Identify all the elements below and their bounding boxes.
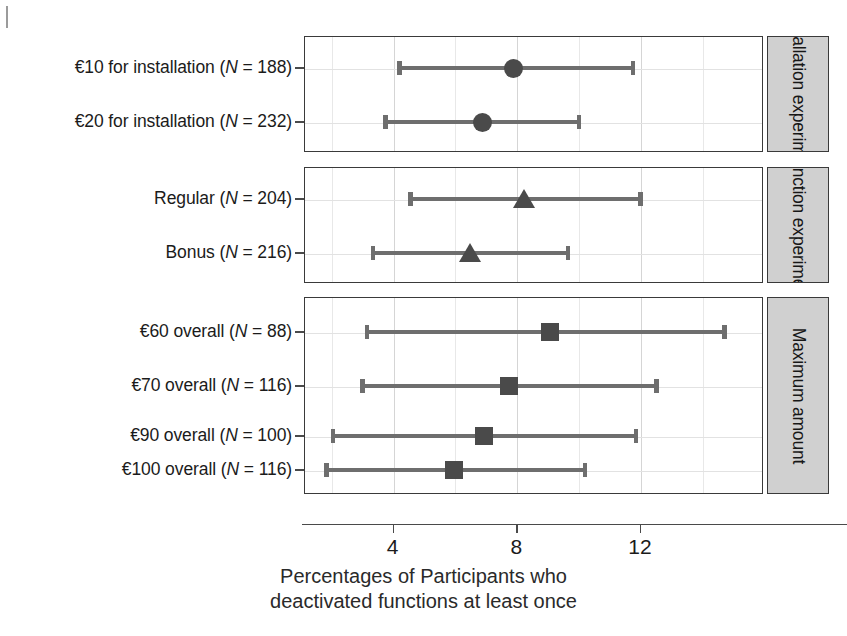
gridline-x-8 bbox=[517, 37, 518, 151]
gridline-x-10 bbox=[579, 37, 580, 151]
row-label-prefix: Regular ( bbox=[154, 188, 225, 208]
strip-label-text: Maximum amount bbox=[788, 327, 809, 463]
row-label--90-overall-n-100-: €90 overall (N = 100) bbox=[130, 425, 292, 446]
error-bar-cap-low bbox=[383, 115, 388, 129]
gridline-x-8 bbox=[517, 298, 518, 493]
data-point-square bbox=[541, 323, 559, 341]
row-label-suffix: = 88) bbox=[247, 321, 292, 341]
row-label--70-overall-n-116-: €70 overall (N = 116) bbox=[131, 375, 292, 396]
x-axis-tick-12 bbox=[640, 525, 641, 533]
row-label--100-overall-n-116-: €100 overall (N = 116) bbox=[122, 459, 292, 480]
gridline-x-12 bbox=[641, 37, 642, 151]
y-axis-tick-3-4 bbox=[295, 469, 304, 471]
error-bar-cap-low bbox=[365, 325, 370, 339]
error-bar-cap-high bbox=[631, 61, 636, 75]
y-axis-tick-2-2 bbox=[295, 252, 304, 254]
gridline-x-12 bbox=[641, 298, 642, 493]
row-label-n-symbol: N bbox=[225, 57, 238, 77]
error-bar-cap-low bbox=[324, 463, 329, 477]
gridline-x-6 bbox=[455, 37, 456, 151]
y-axis-tick-2-1 bbox=[295, 198, 304, 200]
row-label--60-overall-n-88-: €60 overall (N = 88) bbox=[140, 321, 292, 342]
error-bar-cap-high bbox=[583, 463, 588, 477]
row-label-regular-n-204-: Regular (N = 204) bbox=[154, 188, 292, 209]
y-axis-tick-1-1 bbox=[295, 67, 304, 69]
data-point-triangle bbox=[459, 243, 481, 262]
row-label-prefix: €10 for installation ( bbox=[75, 57, 226, 77]
facet-panel-3 bbox=[304, 297, 763, 494]
row-label-prefix: Bonus ( bbox=[166, 242, 226, 262]
row-label-bonus-n-216-: Bonus (N = 216) bbox=[166, 242, 292, 263]
x-axis-title: Percentages of Participants whodeactivat… bbox=[0, 564, 847, 614]
x-axis-line bbox=[302, 524, 847, 525]
y-axis-tick-1-2 bbox=[295, 121, 304, 123]
gridline-x-2 bbox=[332, 298, 333, 493]
facet-panel-2 bbox=[304, 167, 763, 283]
gridline-x-2 bbox=[332, 168, 333, 282]
gridline-x-4 bbox=[394, 37, 395, 151]
gridline-x-14 bbox=[703, 37, 704, 151]
gridline-x-4 bbox=[394, 298, 395, 493]
data-point-square bbox=[445, 461, 463, 479]
gridline-x-10 bbox=[579, 168, 580, 282]
data-point-square bbox=[500, 377, 518, 395]
x-axis-tick-8 bbox=[516, 525, 517, 533]
data-point-triangle bbox=[513, 189, 535, 208]
error-bar-cap-high bbox=[722, 325, 727, 339]
row-label-n-symbol: N bbox=[225, 111, 238, 131]
error-bar-cap-low bbox=[371, 246, 376, 260]
x-axis-tick-4 bbox=[393, 525, 394, 533]
row-label-n-symbol: N bbox=[225, 188, 238, 208]
gridline-x-8 bbox=[517, 168, 518, 282]
error-bar-cap-low bbox=[331, 429, 336, 443]
strip-label-panel-3: Maximum amount bbox=[767, 297, 829, 494]
gridline-x-4 bbox=[394, 168, 395, 282]
row-label-prefix: €60 overall ( bbox=[140, 321, 235, 341]
error-bar-cap-high bbox=[654, 379, 659, 393]
gridline-x-14 bbox=[703, 168, 704, 282]
data-point-square bbox=[475, 427, 493, 445]
row-label--20-for-installation-n-232-: €20 for installation (N = 232) bbox=[75, 111, 292, 132]
strip-label-panel-1: Installation experiment bbox=[767, 36, 829, 152]
row-label-suffix: = 204) bbox=[238, 188, 292, 208]
row-label-suffix: = 188) bbox=[238, 57, 292, 77]
x-axis-ticklabel-4: 4 bbox=[387, 535, 399, 559]
gridline-x-12 bbox=[641, 168, 642, 282]
error-bar-cap-high bbox=[577, 115, 582, 129]
row-label-prefix: €20 for installation ( bbox=[75, 111, 226, 131]
strip-label-panel-2: Function experiment bbox=[767, 167, 829, 283]
error-bar-cap-high bbox=[566, 246, 571, 260]
strip-label-text: Installation experiment bbox=[788, 36, 809, 152]
row-label--10-for-installation-n-188-: €10 for installation (N = 188) bbox=[75, 57, 292, 78]
gridline-x-10 bbox=[579, 298, 580, 493]
row-label-n-symbol: N bbox=[226, 459, 239, 479]
x-axis-title-line-2: deactivated functions at least once bbox=[0, 589, 847, 614]
row-label-prefix: €70 overall ( bbox=[131, 375, 226, 395]
y-axis-tick-3-3 bbox=[295, 435, 304, 437]
x-axis-title-line-1: Percentages of Participants who bbox=[0, 564, 847, 589]
gridline-x-14 bbox=[703, 298, 704, 493]
row-label-suffix: = 216) bbox=[238, 242, 292, 262]
row-label-suffix: = 232) bbox=[238, 111, 292, 131]
x-axis-ticklabel-8: 8 bbox=[510, 535, 522, 559]
chart-figure: Installation experiment€10 for installat… bbox=[0, 0, 847, 636]
row-label-suffix: = 116) bbox=[239, 459, 292, 479]
error-bar-cap-high bbox=[638, 192, 643, 206]
data-point-circle bbox=[473, 113, 492, 132]
row-label-prefix: €90 overall ( bbox=[130, 425, 225, 445]
row-label-n-symbol: N bbox=[226, 375, 239, 395]
row-label-prefix: €100 overall ( bbox=[122, 459, 227, 479]
data-point-circle bbox=[504, 59, 523, 78]
error-bar-cap-low bbox=[408, 192, 413, 206]
error-bar-cap-low bbox=[397, 61, 402, 75]
facet-panel-1 bbox=[304, 36, 763, 152]
row-label-suffix: = 116) bbox=[239, 375, 292, 395]
row-label-suffix: = 100) bbox=[238, 425, 292, 445]
gridline-x-6 bbox=[455, 168, 456, 282]
y-axis-tick-3-1 bbox=[295, 331, 304, 333]
row-label-n-symbol: N bbox=[235, 321, 248, 341]
error-bar-cap-low bbox=[360, 379, 365, 393]
x-axis-ticklabel-12: 12 bbox=[628, 535, 651, 559]
y-axis-tick-3-2 bbox=[295, 385, 304, 387]
row-label-n-symbol: N bbox=[225, 242, 238, 262]
